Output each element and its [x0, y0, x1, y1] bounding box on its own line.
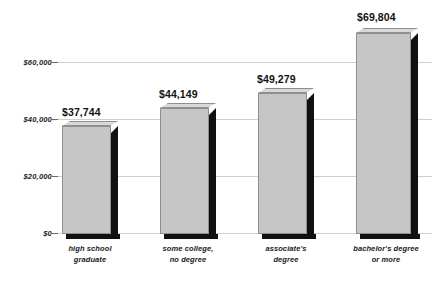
- bar-group-3: [356, 29, 418, 234]
- category-label-3: bachelor's degree or more: [334, 243, 438, 265]
- bar-bottom-shadow-1: [164, 234, 218, 239]
- ytick-dash-40000: [52, 119, 58, 120]
- bar-face-2: [258, 93, 307, 234]
- bar-side-1: [208, 108, 216, 234]
- category-label-0: high school graduate: [42, 243, 138, 265]
- bar-bottom-shadow-2: [262, 234, 316, 239]
- ytick-label-60000: $60,000: [0, 58, 52, 67]
- bar-bottom-shadow-0: [66, 234, 120, 239]
- category-label-1: some college, no degree: [140, 243, 236, 265]
- bar-face-0: [62, 126, 111, 234]
- bar-side-0: [110, 126, 118, 234]
- bar-face-1: [160, 108, 209, 234]
- bar-side-2: [306, 93, 314, 234]
- ytick-dash-20000: [52, 176, 58, 177]
- ytick-dash-0: [52, 233, 58, 234]
- ytick-dash-60000: [52, 62, 58, 63]
- bar-side-3: [410, 33, 418, 234]
- plot-area: $60,000 $40,000 $20,000 $0 $37,744 high …: [0, 0, 444, 281]
- bar-group-1: [160, 104, 216, 234]
- ytick-label-0: $0: [0, 229, 52, 238]
- bar-value-label-0: $37,744: [62, 106, 101, 118]
- bar-chart: $60,000 $40,000 $20,000 $0 $37,744 high …: [0, 0, 444, 281]
- bar-group-2: [258, 89, 314, 234]
- bar-value-label-3: $69,804: [357, 11, 396, 23]
- bar-value-label-1: $44,149: [159, 88, 198, 100]
- bar-bottom-shadow-3: [360, 234, 420, 239]
- category-label-2: associate's degree: [238, 243, 334, 265]
- bar-value-label-2: $49,279: [257, 73, 296, 85]
- ytick-label-40000: $40,000: [0, 115, 52, 124]
- ytick-label-20000: $20,000: [0, 172, 52, 181]
- bar-group-0: [62, 122, 118, 234]
- bar-face-3: [356, 33, 411, 234]
